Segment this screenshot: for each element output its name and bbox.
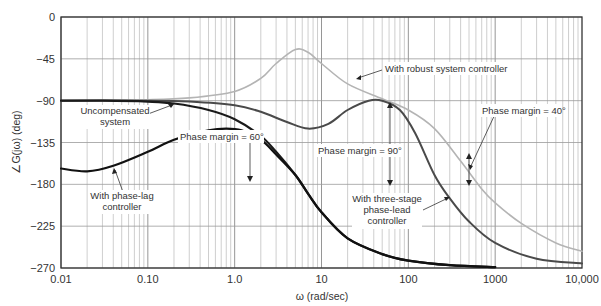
x-tick-label: 1000 — [483, 273, 507, 285]
x-tick-label: 100 — [399, 273, 417, 285]
annotation-arrowheads — [112, 75, 473, 201]
label-three-stage-2: phase-lead — [363, 204, 410, 215]
label-phase-margin-90: Phase margin = 90° — [318, 145, 402, 156]
x-axis-label: ω (rad/sec) — [296, 290, 349, 302]
y-axis-ticks: 0−45−90−135−180−225−270 — [30, 11, 55, 274]
x-tick-label: 1.0 — [227, 273, 242, 285]
y-tick-label: −90 — [36, 95, 55, 107]
x-tick-label: 10 — [315, 273, 327, 285]
label-uncompensated-2: system — [100, 116, 130, 127]
label-uncompensated-1: Uncompensated — [80, 105, 149, 116]
y-tick-label: −45 — [36, 53, 55, 65]
y-tick-label: −135 — [30, 137, 55, 149]
x-tick-label: 10,000 — [565, 273, 599, 285]
x-tick-label: 0.01 — [50, 273, 71, 285]
label-phase-margin-60: Phase margin = 60° — [180, 131, 264, 142]
label-robust: With robust system controller — [385, 63, 507, 74]
x-axis-ticks: 0.010.101.010100100010,000 — [50, 273, 599, 285]
y-tick-label: 0 — [49, 11, 55, 23]
y-axis-label: ∠G(jω) (deg) — [10, 110, 22, 173]
x-tick-label: 0.10 — [137, 273, 158, 285]
grid-lines — [61, 17, 582, 268]
label-phase-lag-2: controller — [102, 201, 141, 212]
y-tick-label: −225 — [30, 220, 55, 232]
bode-phase-chart: 0−45−90−135−180−225−270 0.010.101.010100… — [0, 0, 601, 306]
label-three-stage-3: controller — [367, 215, 406, 226]
annotation-labels: With robust system controller Uncompensa… — [80, 62, 566, 229]
label-three-stage-1: With three-stage — [352, 193, 422, 204]
y-tick-label: −180 — [30, 178, 55, 190]
label-phase-lag-1: With phase-lag — [90, 190, 153, 201]
label-phase-margin-40: Phase margin = 40° — [482, 105, 566, 116]
